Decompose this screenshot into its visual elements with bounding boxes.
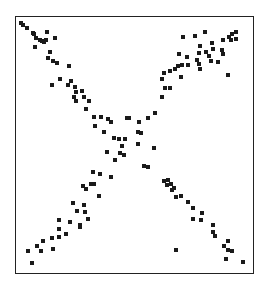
data-point bbox=[84, 187, 88, 191]
data-point bbox=[91, 170, 95, 174]
data-point bbox=[204, 50, 208, 54]
data-point bbox=[26, 249, 30, 253]
data-point bbox=[68, 220, 72, 224]
data-point bbox=[203, 30, 207, 34]
data-point bbox=[69, 79, 73, 83]
data-point bbox=[87, 99, 91, 103]
data-point bbox=[241, 260, 245, 264]
data-point bbox=[102, 130, 106, 134]
data-point bbox=[82, 203, 86, 207]
data-point bbox=[97, 194, 101, 198]
data-point bbox=[99, 115, 103, 119]
data-point bbox=[174, 195, 178, 199]
data-point bbox=[210, 41, 214, 45]
data-point bbox=[113, 158, 117, 162]
data-point bbox=[122, 153, 126, 157]
data-point bbox=[163, 86, 167, 90]
data-point bbox=[137, 120, 141, 124]
data-points bbox=[19, 21, 245, 265]
data-point bbox=[193, 34, 197, 38]
data-point bbox=[222, 244, 226, 248]
data-point bbox=[46, 56, 50, 60]
data-point bbox=[136, 142, 140, 146]
data-point bbox=[153, 111, 157, 115]
data-point bbox=[92, 115, 96, 119]
data-point bbox=[39, 249, 43, 253]
data-point bbox=[83, 210, 87, 214]
data-point bbox=[105, 150, 109, 154]
data-point bbox=[211, 223, 215, 227]
data-point bbox=[211, 230, 215, 234]
data-point bbox=[211, 47, 215, 51]
data-point bbox=[209, 59, 213, 63]
data-point bbox=[177, 52, 181, 56]
data-point bbox=[220, 48, 224, 52]
data-point bbox=[92, 182, 96, 186]
data-point bbox=[34, 36, 38, 40]
data-point bbox=[73, 85, 77, 89]
data-point bbox=[50, 83, 54, 87]
data-point bbox=[179, 194, 183, 198]
data-point bbox=[21, 23, 25, 27]
data-point bbox=[160, 95, 164, 99]
data-point bbox=[74, 99, 78, 103]
data-point bbox=[82, 95, 86, 99]
data-point bbox=[51, 247, 55, 251]
data-point bbox=[199, 218, 203, 222]
data-point bbox=[33, 45, 37, 49]
data-point bbox=[168, 86, 172, 90]
data-point bbox=[120, 144, 124, 148]
data-point bbox=[51, 59, 55, 63]
data-point bbox=[221, 38, 225, 42]
data-point bbox=[224, 257, 228, 261]
data-point bbox=[186, 63, 190, 67]
data-point bbox=[174, 248, 178, 252]
data-point bbox=[181, 35, 185, 39]
data-point bbox=[50, 236, 54, 240]
data-point bbox=[123, 137, 127, 141]
data-point bbox=[125, 116, 129, 120]
data-point bbox=[186, 200, 190, 204]
data-point bbox=[64, 232, 68, 236]
data-point bbox=[200, 211, 204, 215]
data-point bbox=[109, 175, 113, 179]
data-point bbox=[166, 178, 170, 182]
data-point bbox=[80, 89, 84, 93]
data-point bbox=[179, 75, 183, 79]
data-point bbox=[207, 54, 211, 58]
data-point bbox=[35, 244, 39, 248]
data-point bbox=[230, 32, 234, 36]
data-point bbox=[165, 183, 169, 187]
data-point bbox=[117, 137, 121, 141]
data-point bbox=[55, 61, 59, 65]
data-point bbox=[48, 50, 52, 54]
data-point bbox=[74, 90, 78, 94]
data-point bbox=[234, 37, 238, 41]
data-point bbox=[98, 172, 102, 176]
data-point bbox=[162, 179, 166, 183]
data-point bbox=[172, 186, 176, 190]
data-point bbox=[41, 239, 45, 243]
data-point bbox=[198, 67, 202, 71]
data-point bbox=[93, 124, 97, 128]
data-point bbox=[71, 201, 75, 205]
data-point bbox=[162, 71, 166, 75]
data-point bbox=[173, 67, 177, 71]
data-point bbox=[53, 36, 57, 40]
data-point bbox=[185, 55, 189, 59]
data-point bbox=[58, 77, 62, 81]
data-point bbox=[197, 51, 201, 55]
data-point bbox=[32, 32, 36, 36]
data-point bbox=[197, 62, 201, 66]
data-point bbox=[78, 225, 82, 229]
data-point bbox=[84, 107, 88, 111]
data-point bbox=[168, 69, 172, 73]
data-point bbox=[146, 116, 150, 120]
data-point bbox=[191, 217, 195, 221]
data-point bbox=[112, 136, 116, 140]
data-point bbox=[45, 30, 49, 34]
data-point bbox=[146, 165, 150, 169]
data-point bbox=[230, 249, 234, 253]
data-point bbox=[57, 218, 61, 222]
data-point bbox=[234, 30, 238, 34]
